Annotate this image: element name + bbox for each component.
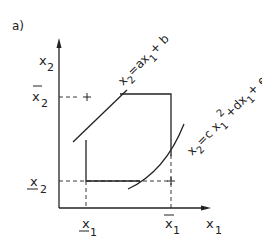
svg-text:2: 2 <box>40 183 47 196</box>
svg-text:x: x <box>39 53 47 68</box>
tick-x2-lower: x 2 <box>27 174 47 196</box>
y-axis-label: x 2 <box>39 53 54 74</box>
svg-text:x: x <box>32 89 40 104</box>
panel-label: a) <box>12 19 24 33</box>
svg-text:1: 1 <box>173 224 180 237</box>
quadratic-constraint-curve <box>128 124 184 189</box>
linear-constraint-line <box>73 90 127 142</box>
tick-x1-upper: x 1 <box>164 215 180 237</box>
svg-text:x2=ax1+ b: x2=ax1+ b <box>115 32 174 91</box>
svg-text:x: x <box>30 174 38 189</box>
tick-x2-upper: x 2 <box>32 86 48 110</box>
linear-constraint-label: x2=ax1+ b <box>115 32 174 91</box>
svg-text:x: x <box>165 216 173 231</box>
region-left-bottom-edges <box>86 140 140 181</box>
feasible-region <box>86 94 171 181</box>
tick-x1-lower: x 1 <box>79 216 97 239</box>
quadratic-constraint-label: x2=c x12+dx1+ e <box>181 70 262 161</box>
y-axis-arrow-icon <box>57 38 62 48</box>
svg-text:1: 1 <box>215 224 222 237</box>
svg-text:x: x <box>206 216 214 231</box>
corner-markers <box>83 93 175 185</box>
svg-text:2: 2 <box>41 97 48 110</box>
x-axis-label: x 1 <box>206 216 222 237</box>
svg-text:x2=c x12+dx1+ e: x2=c x12+dx1+ e <box>181 70 262 161</box>
svg-text:x: x <box>82 216 90 231</box>
x-axis-arrow-icon <box>201 206 211 211</box>
feasible-region-diagram: a) x 2 x 1 x 2 x 2 <box>0 0 262 249</box>
bound-guides <box>59 97 171 208</box>
region-top-right-edges <box>120 94 171 156</box>
svg-text:1: 1 <box>90 226 97 239</box>
svg-text:2: 2 <box>47 61 54 74</box>
